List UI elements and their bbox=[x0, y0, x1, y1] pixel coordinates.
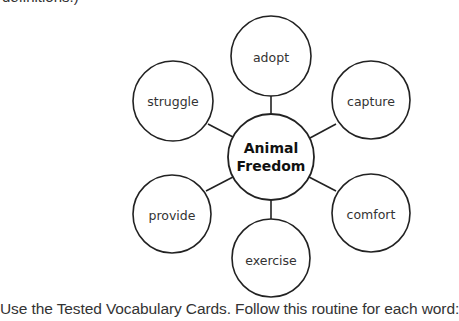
connector-provide bbox=[206, 177, 233, 191]
connector-capture bbox=[310, 124, 336, 138]
node-provide: provide bbox=[133, 175, 211, 253]
node-label-exercise: exercise bbox=[245, 253, 297, 268]
connector-struggle bbox=[208, 124, 233, 137]
node-label-capture: capture bbox=[347, 94, 395, 109]
instruction-text: Use the Tested Vocabulary Cards. Follow … bbox=[0, 300, 459, 318]
node-capture: capture bbox=[332, 61, 410, 139]
node-label-adopt: adopt bbox=[253, 50, 289, 65]
center-label-line2: Freedom bbox=[237, 158, 306, 174]
connector-comfort bbox=[309, 177, 336, 191]
node-comfort: comfort bbox=[332, 174, 410, 252]
node-struggle: struggle bbox=[133, 61, 213, 141]
center-label-line1: Animal bbox=[244, 140, 298, 156]
center-node: Animal Freedom bbox=[228, 114, 314, 200]
node-label-struggle: struggle bbox=[147, 94, 199, 109]
node-adopt: adopt bbox=[231, 16, 311, 96]
node-label-comfort: comfort bbox=[347, 207, 396, 222]
node-exercise: exercise bbox=[232, 219, 310, 297]
node-label-provide: provide bbox=[149, 208, 196, 223]
